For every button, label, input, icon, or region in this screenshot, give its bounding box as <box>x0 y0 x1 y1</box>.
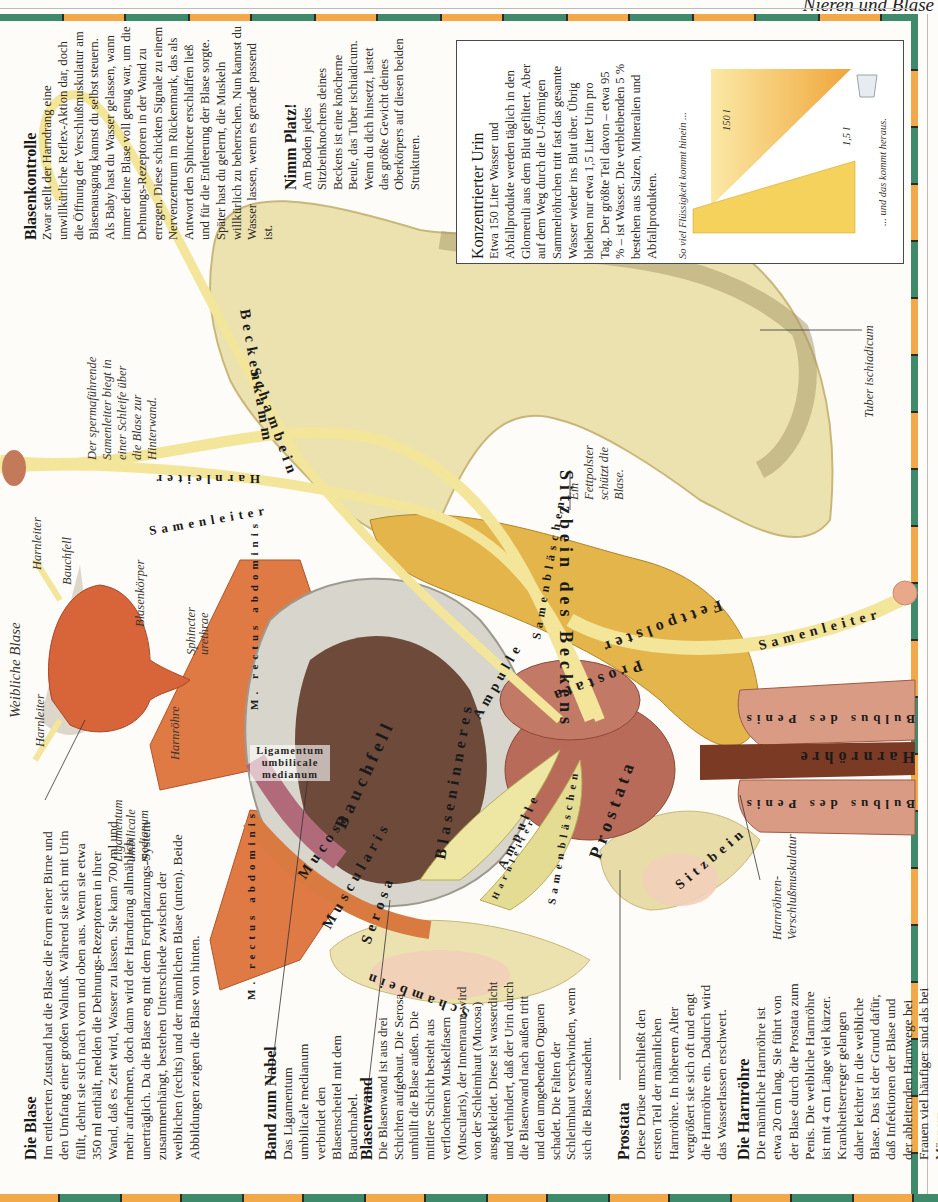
volume-out-label: 1,5 l <box>839 127 854 146</box>
die-harnroehre-body: Die männliche Harnröhre ist etwa 20 cm l… <box>753 980 938 1160</box>
label-fettpolster: Fettpolster <box>597 596 725 657</box>
konzentrierter-urin-title: Konzentrierter Urin <box>469 59 487 259</box>
sitzbein-bone <box>600 811 760 910</box>
section-die-harnroehre: Die Harnröhre Die männliche Harnröhre is… <box>735 980 938 1160</box>
label-prostata-1: Prostata <box>547 657 644 706</box>
blasenkontrolle-title: Blasenkontrolle <box>22 25 40 240</box>
border-line-top <box>0 8 915 9</box>
band-zum-nabel-body: Das Ligamentum umbilicale medianum verbi… <box>280 1030 361 1160</box>
harnroehre-shape <box>700 742 915 780</box>
label-samenleiter-left: Samenleiter <box>148 502 270 538</box>
ligamentum-small-text: Ligamentum umbilicale medianum <box>111 800 151 863</box>
sphincter-text: Sphincter urethrae <box>184 607 211 655</box>
bulbus-penis-lower <box>738 780 915 835</box>
harnroehren-verschluss-text: Harnröhren-Verschlußmuskulatur <box>770 834 799 940</box>
label-beckenkamm: Beckenkamm <box>237 308 277 446</box>
decorative-border-top <box>0 14 915 21</box>
label-m-rectus-1: M. rectus abdominis <box>248 519 260 710</box>
caption-out: ... und das kommt heraus. <box>875 118 890 226</box>
decorative-border-bottom <box>0 1194 938 1202</box>
nimm-platz-title: Nimm Platz! <box>282 30 300 190</box>
section-prostata: Prostata Diese Drüse umschließt den erst… <box>615 980 731 1160</box>
section-blasenkontrolle: Blasenkontrolle Zwar stellt der Harndran… <box>22 25 277 240</box>
info-box-konzentrierter-urin: Konzentrierter Urin Etwa 150 Liter Wasse… <box>456 40 904 264</box>
rectus-muscle-lower <box>210 810 340 990</box>
female-peritoneum <box>40 565 100 735</box>
section-blasenwand: Blasenwand Die Blasenwand ist aus drei S… <box>358 980 596 1160</box>
label-mucosa: Mucosa <box>294 807 353 882</box>
label-ampulle-2: Ampulle <box>494 790 543 871</box>
label-bulbus-2: Bulbus des Penis <box>742 797 915 812</box>
blasenkontrolle-body: Zwar stellt der Harndrang eine unwillkür… <box>40 25 277 240</box>
die-blase-title: Die Blase <box>22 820 40 1160</box>
label-weibliche-blase: Weibliche Blase <box>8 622 23 718</box>
harnleiter-duct <box>0 432 590 720</box>
samenleiter-duct-right <box>570 600 900 648</box>
label-samenblaeschen-1: Samenbläschen <box>529 496 568 641</box>
prostata-body: Diese Drüse umschließt den ersten Teil d… <box>633 980 731 1160</box>
label-ligamentum-small: Ligamentum umbilicale medianum <box>112 792 151 862</box>
samenblaeschen-shape <box>480 760 582 910</box>
label-harnroehre-big: Harnröhre <box>796 749 915 766</box>
label-harnleiter-2: Harnleiter <box>30 517 45 570</box>
label-bauchfell: Bauchfell <box>60 537 75 585</box>
nimm-platz-body: Am Boden jedes Sitzbeinknochens deines B… <box>300 30 423 190</box>
label-bulbus-1: Bulbus des Penis <box>742 712 915 727</box>
samenleiter-note-text: Der spermaführende Samenleiter biegt in … <box>85 357 159 460</box>
label-sitzbein-des-beckens: Sitzbein des Beckens <box>556 470 576 729</box>
label-samenleiter-right: Samenleiter <box>757 606 883 653</box>
label-ampulle-1: Ampulle <box>470 639 526 721</box>
label-prostata-2: Prostata <box>585 756 640 861</box>
label-harnroehre-small: Harnröhre <box>168 706 183 760</box>
label-m-rectus-2: M. rectus abdominis <box>245 809 257 1000</box>
volume-in-label: 150 l <box>719 110 734 131</box>
fettpolster-note-text: Ein Fettpolster schützt die Blase. <box>567 445 626 500</box>
label-ligamentum-bold: Ligamentum umbilicale medianum <box>250 745 330 781</box>
muscularis-layer <box>250 820 430 930</box>
label-sphincter: Sphincter urethrae <box>185 605 211 655</box>
caption-in: So viel Flüssigkeit kommt hinein ... <box>675 112 690 259</box>
label-sitzbein: Sitzbein <box>672 824 749 892</box>
bladder-wall <box>245 579 536 907</box>
blasenwand-body: Die Blasenwand ist aus drei Schichten au… <box>376 980 596 1160</box>
section-nimm-platz: Nimm Platz! Am Boden jedes Sitzbeinknoch… <box>282 30 423 190</box>
samenleiter-duct-left <box>0 465 600 720</box>
label-bauchfell: Bauchfell <box>330 716 398 831</box>
section-band-zum-nabel: Band zum Nabel Das Ligamentum umbilicale… <box>262 1030 361 1160</box>
ampulle-shape <box>420 750 560 880</box>
label-harnleiter-small: Harnleiter <box>490 815 537 901</box>
cup-15l-icon <box>857 75 877 97</box>
label-blaseninneres: Blaseninneres <box>431 700 475 860</box>
die-blase-body: Im entleerten Zustand hat die Blase die … <box>40 820 203 1160</box>
prostata-title: Prostata <box>615 980 633 1160</box>
die-harnroehre-title: Die Harnröhre <box>735 980 753 1160</box>
label-fettpolster-note: Ein Fettpolster schützt die Blase. <box>567 435 627 500</box>
label-samenleiter-note: Der spermaführende Samenleiter biegt in … <box>85 350 160 460</box>
blasenwand-title: Blasenwand <box>358 980 376 1160</box>
label-blasenkoerper: Blasenkörper <box>133 560 148 627</box>
label-harnleiter-1: Harnleiter <box>33 694 48 747</box>
band-zum-nabel-title: Band zum Nabel <box>262 1030 280 1160</box>
bulbus-penis-upper <box>738 680 915 745</box>
prostata-shape <box>505 700 675 840</box>
label-serosa: Serosa <box>358 873 398 946</box>
section-die-blase: Die Blase Im entleerten Zustand hat die … <box>22 820 203 1160</box>
label-tuber-ischiadicum: Tuber ischiadicum <box>862 325 877 418</box>
label-harnroehren-verschluss: Harnröhren-Verschlußmuskulatur <box>770 820 800 940</box>
fettpolster-shape <box>370 515 760 747</box>
konzentrierter-urin-text: Konzentrierter Urin Etwa 150 Liter Wasse… <box>469 59 661 259</box>
label-harnleiter-top: Harnleiter <box>152 472 260 487</box>
ligamentum-bold-text: Ligamentum umbilicale medianum <box>256 745 324 780</box>
label-schambein-top: Schambein <box>247 366 302 480</box>
label-muscularis: Muscularis <box>319 818 394 931</box>
konzentrierter-urin-body: Etwa 150 Liter Wasser und Abfallprodukte… <box>487 59 661 259</box>
label-samenblaeschen-2: Samenbläschen <box>545 768 581 906</box>
